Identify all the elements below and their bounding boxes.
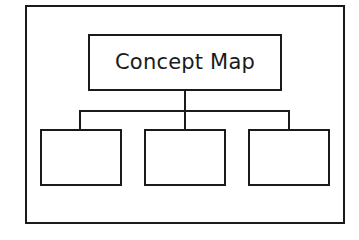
concept-map-title-box: Concept Map <box>88 34 282 91</box>
connector-left-drop <box>79 110 81 130</box>
child-box-2 <box>144 129 226 186</box>
connector-stem <box>184 90 186 112</box>
concept-map-title: Concept Map <box>115 50 255 74</box>
child-box-3 <box>248 129 330 186</box>
connector-right-drop <box>288 110 290 130</box>
connector-middle-drop <box>184 110 186 130</box>
child-box-1 <box>40 129 122 186</box>
